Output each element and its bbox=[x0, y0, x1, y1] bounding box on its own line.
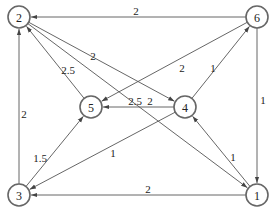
edge-weight-label: 2 bbox=[133, 5, 139, 17]
edge-weight-label: 2 bbox=[90, 50, 96, 62]
node-3: 3 bbox=[8, 184, 30, 206]
edge-weight-label: 2.5 bbox=[128, 95, 142, 107]
node-4: 4 bbox=[174, 96, 196, 118]
node-5: 5 bbox=[80, 96, 102, 118]
edge-4-to-3 bbox=[30, 112, 176, 189]
edge-weight-label: 2.5 bbox=[61, 64, 75, 76]
node-label: 6 bbox=[254, 11, 260, 25]
node-label: 1 bbox=[254, 189, 260, 203]
edge-weight-label: 1 bbox=[230, 151, 236, 163]
edge-2-to-4 bbox=[29, 22, 175, 101]
node-1: 1 bbox=[246, 184, 268, 206]
edge-weight-label: 1 bbox=[210, 62, 216, 74]
edge-weight-label: 1 bbox=[110, 147, 116, 159]
node-6: 6 bbox=[246, 6, 268, 28]
edge-weight-label: 1.5 bbox=[33, 152, 47, 164]
node-label: 4 bbox=[182, 101, 188, 115]
node-label: 3 bbox=[16, 189, 22, 203]
node-2: 2 bbox=[8, 6, 30, 28]
edge-weight-label: 1 bbox=[260, 94, 266, 106]
edge-weight-label: 2 bbox=[147, 95, 153, 107]
edge-weight-label: 2 bbox=[21, 108, 27, 120]
edge-weight-label: 2 bbox=[145, 183, 151, 195]
edge-6-to-5 bbox=[102, 22, 248, 101]
graph-canvas: 21221.52.522.522111 123456 bbox=[0, 0, 276, 217]
edge-1-to-4 bbox=[193, 116, 250, 186]
node-label: 5 bbox=[88, 101, 94, 115]
edge-labels-layer: 21221.52.522.522111 bbox=[21, 5, 266, 195]
node-label: 2 bbox=[16, 11, 22, 25]
edge-weight-label: 2 bbox=[179, 62, 185, 74]
